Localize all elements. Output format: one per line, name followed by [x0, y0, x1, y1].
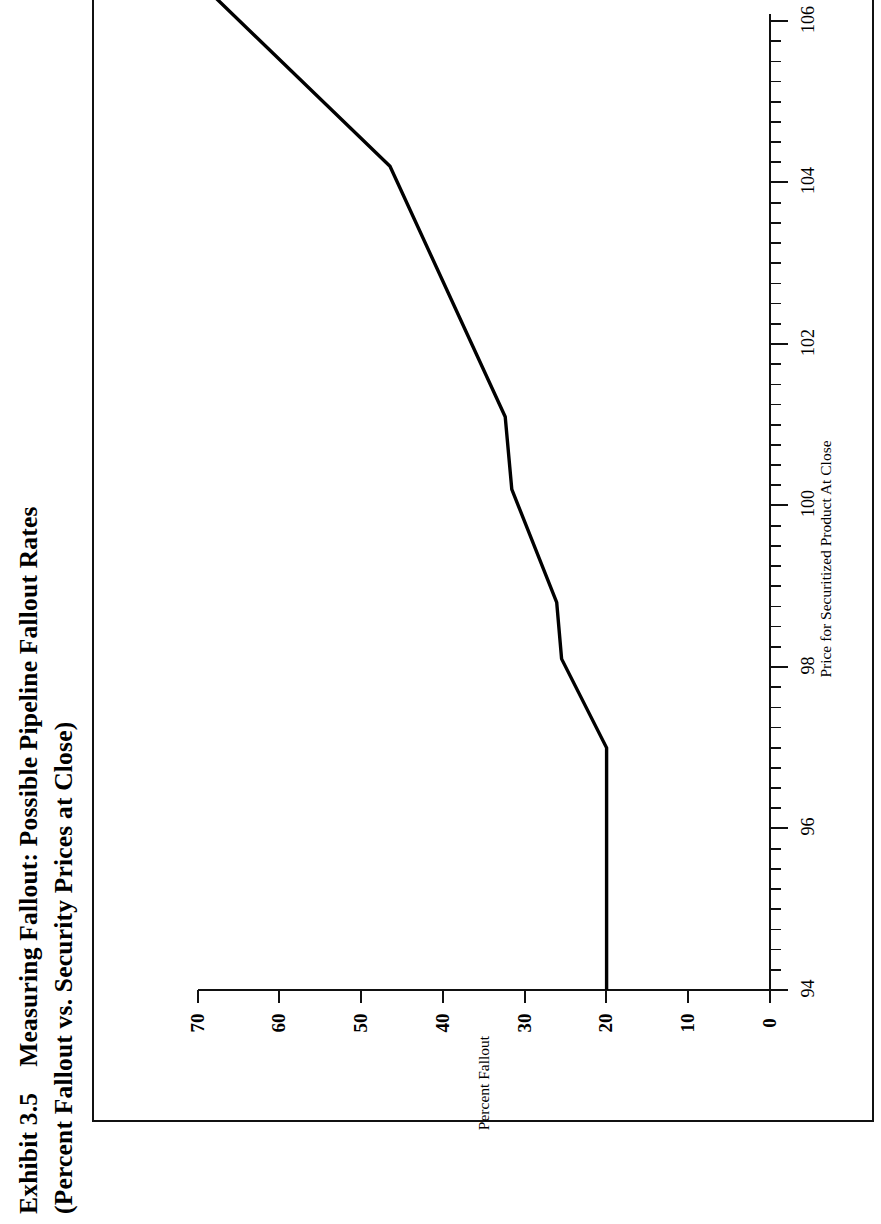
fallout-data-line: [206, 0, 606, 990]
x-tick-label-106: 106: [798, 0, 819, 42]
y-tick-label-60: 60: [268, 1007, 290, 1039]
x-tick-label-102: 102: [798, 321, 819, 365]
x-axis-title: Price for Securitized Product At Close: [817, 409, 835, 709]
y-axis-title: Percent Fallout: [475, 983, 493, 1183]
y-tick-label-0: 0: [759, 1007, 781, 1039]
y-tick-label-40: 40: [432, 1007, 454, 1039]
plot-canvas: [0, 0, 881, 1224]
x-tick-label-100: 100: [798, 482, 819, 526]
x-axis: [770, 14, 788, 990]
x-tick-label-94: 94: [798, 967, 819, 1011]
x-tick-label-96: 96: [798, 805, 819, 849]
x-tick-label-104: 104: [798, 159, 819, 203]
y-tick-label-20: 20: [595, 1007, 617, 1039]
exhibit-page: Exhibit 3.5Measuring Fallout: Possible P…: [0, 0, 881, 1224]
rotated-exhibit: Exhibit 3.5Measuring Fallout: Possible P…: [0, 0, 881, 1224]
y-tick-label-70: 70: [187, 1007, 209, 1039]
x-tick-label-98: 98: [798, 644, 819, 688]
y-tick-label-10: 10: [677, 1007, 699, 1039]
y-tick-label-30: 30: [514, 1007, 536, 1039]
y-tick-label-50: 50: [350, 1007, 372, 1039]
